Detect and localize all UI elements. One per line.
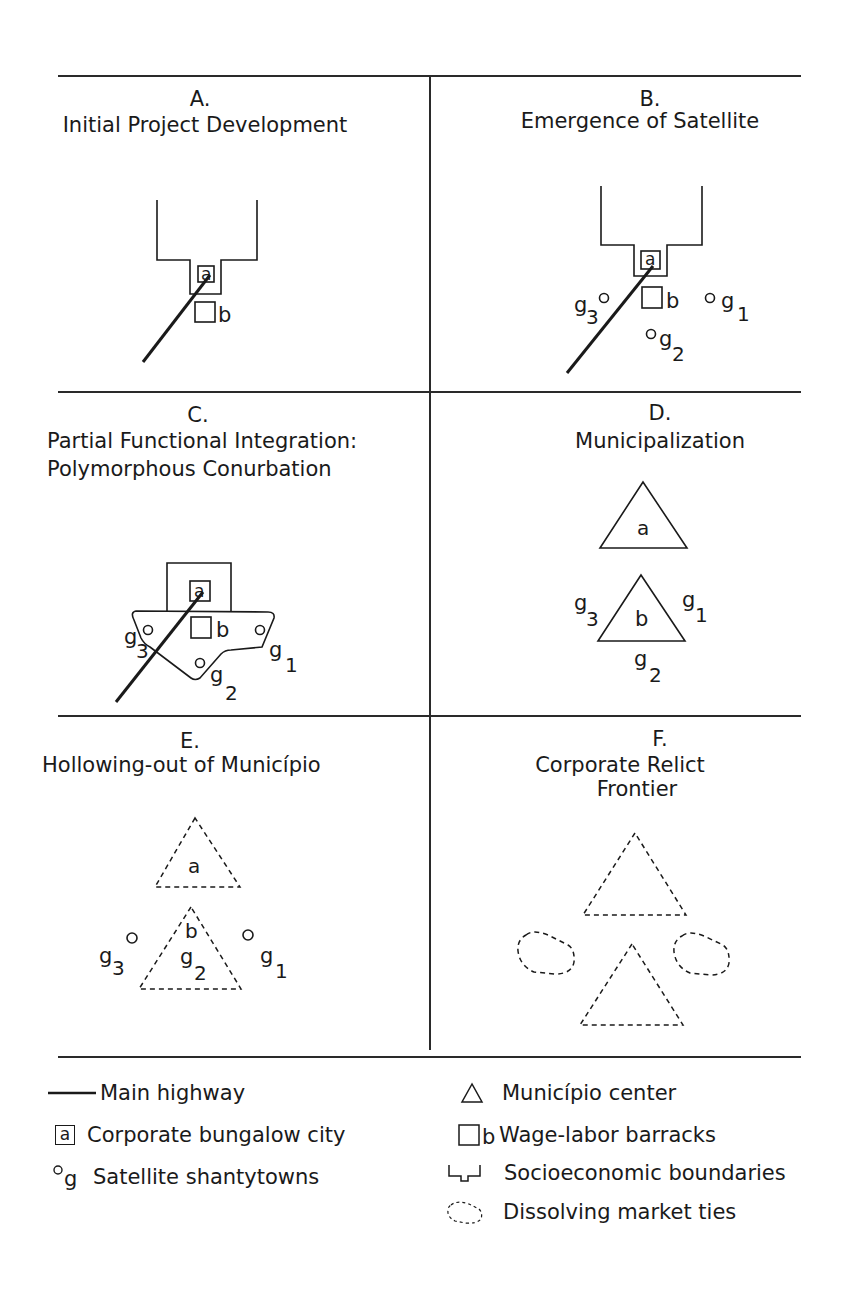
- shantytown-g2: [196, 659, 205, 668]
- panel-a-drawing: a b: [40, 76, 430, 392]
- g3-label: g: [99, 944, 112, 968]
- square-b-icon: b: [457, 1123, 497, 1147]
- urban-evolution-diagram: A. Initial Project Development a b B. Em…: [0, 0, 854, 1309]
- relict-municipio-top: [583, 833, 686, 915]
- g1-subscript: 1: [737, 302, 750, 326]
- legend-wage-labor-barracks: b Wage-labor barracks: [457, 1123, 716, 1147]
- shantytown-g1: [256, 626, 265, 635]
- triangle-icon: [460, 1082, 484, 1104]
- legend-label: Wage-labor barracks: [499, 1123, 716, 1147]
- legend-label: Main highway: [100, 1081, 245, 1105]
- barracks-label: b: [666, 289, 679, 313]
- legend-satellite-shantytowns: g Satellite shantytowns: [53, 1164, 319, 1190]
- legend-main-highway: Main highway: [46, 1081, 245, 1105]
- g2-label: g: [659, 327, 672, 351]
- panel-c-drawing: a b g 3 g 1 g 2: [40, 392, 430, 716]
- relict-municipio-bottom: [580, 944, 683, 1025]
- g2-subscript: 2: [194, 961, 207, 985]
- g3-subscript: 3: [586, 607, 599, 631]
- panel-b-drawing: a b g 3 g 1 g 2: [430, 76, 802, 392]
- legend-corporate-bungalow-city: a Corporate bungalow city: [55, 1123, 345, 1147]
- bottom-rule: [58, 1056, 801, 1058]
- shantytown-g3: [144, 626, 153, 635]
- panel-e-drawing: a b g 2 g 3 g 1: [40, 716, 430, 1056]
- g2-subscript: 2: [649, 663, 662, 687]
- g1-label: g: [682, 588, 695, 612]
- g2-subscript: 2: [225, 681, 238, 705]
- shantytown-g2: [647, 330, 656, 339]
- shantytown-g3: [600, 294, 609, 303]
- legend-label: Município center: [502, 1081, 676, 1105]
- g1-label: g: [269, 638, 282, 662]
- municipio-a-label: a: [188, 854, 200, 878]
- barracks-label: b: [216, 618, 229, 642]
- legend-label: Satellite shantytowns: [93, 1165, 319, 1189]
- g2-label: g: [180, 945, 193, 969]
- dissolving-market-ties-left: [518, 932, 574, 974]
- panel-f-drawing: [430, 716, 802, 1056]
- legend-socioeconomic-boundaries: Socioeconomic boundaries: [446, 1161, 786, 1185]
- g1-subscript: 1: [285, 653, 298, 677]
- g2-label: g: [210, 663, 223, 687]
- g2-label: g: [634, 647, 647, 671]
- shantytown-g1: [706, 294, 715, 303]
- legend-label: Corporate bungalow city: [87, 1123, 345, 1147]
- legend-label: Socioeconomic boundaries: [504, 1161, 786, 1185]
- municipio-b-label: b: [635, 607, 648, 631]
- g1-label: g: [260, 944, 273, 968]
- municipio-b-label: b: [185, 919, 198, 943]
- main-highway: [567, 266, 653, 373]
- legend-municipio-center: Município center: [460, 1081, 676, 1105]
- g1-subscript: 1: [275, 959, 288, 983]
- g2-subscript: 2: [672, 342, 685, 366]
- bungalow-label: a: [645, 249, 655, 269]
- g3-subscript: 3: [136, 639, 149, 663]
- panel-b: B. Emergence of Satellite a b g 3 g 1 g …: [430, 76, 802, 392]
- barracks-box: [642, 287, 662, 308]
- panel-c: C. Partial Functional Integration: Polym…: [40, 392, 430, 716]
- circle-g-text: g: [64, 1167, 77, 1191]
- main-highway: [143, 275, 210, 362]
- g1-label: g: [721, 289, 734, 313]
- panel-d: D. Municipalization a b g 3 g 1 g 2: [430, 392, 802, 716]
- boxed-a-icon: a: [55, 1125, 75, 1145]
- g3-subscript: 3: [586, 305, 599, 329]
- panel-e: E. Hollowing-out of Município a b g 2 g …: [40, 716, 430, 1056]
- dashed-blob-icon: [445, 1199, 485, 1225]
- shantytown-g1: [243, 930, 253, 940]
- barracks-box: [195, 302, 215, 322]
- g3-subscript: 3: [112, 956, 125, 980]
- g1-subscript: 1: [695, 603, 708, 627]
- legend-dissolving-market-ties: Dissolving market ties: [445, 1199, 736, 1225]
- barracks-box: [191, 617, 211, 638]
- shantytown-g3: [127, 933, 137, 943]
- boundary-icon: [446, 1162, 484, 1184]
- integrated-conurbation-outline: [132, 611, 274, 680]
- municipio-a-label: a: [637, 516, 649, 540]
- line-icon: [46, 1083, 96, 1103]
- circle-g-icon: g: [53, 1164, 83, 1190]
- barracks-label: b: [218, 303, 231, 327]
- dissolving-market-ties-right: [674, 933, 729, 975]
- legend-label: Dissolving market ties: [503, 1200, 736, 1224]
- panel-a: A. Initial Project Development a b: [40, 76, 430, 392]
- panel-f: F. Corporate Relict Frontier: [430, 716, 802, 1056]
- square-b-text: b: [482, 1125, 495, 1149]
- panel-d-drawing: a b g 3 g 1 g 2: [430, 392, 802, 716]
